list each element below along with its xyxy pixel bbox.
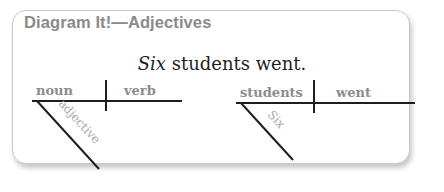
example-subject-label: students	[240, 85, 303, 100]
example-modifier-line	[241, 103, 293, 160]
template-diagram: noun verb adjective	[32, 80, 182, 169]
example-modifier-label: Six	[265, 108, 288, 132]
example-diagram: students went Six	[236, 80, 415, 160]
example-verb-label: went	[335, 85, 371, 100]
template-subject-label: noun	[36, 83, 74, 98]
template-modifier-label: adjective	[56, 97, 103, 147]
template-verb-label: verb	[123, 83, 156, 98]
diagrams-canvas: noun verb adjective students went Six	[0, 0, 444, 192]
